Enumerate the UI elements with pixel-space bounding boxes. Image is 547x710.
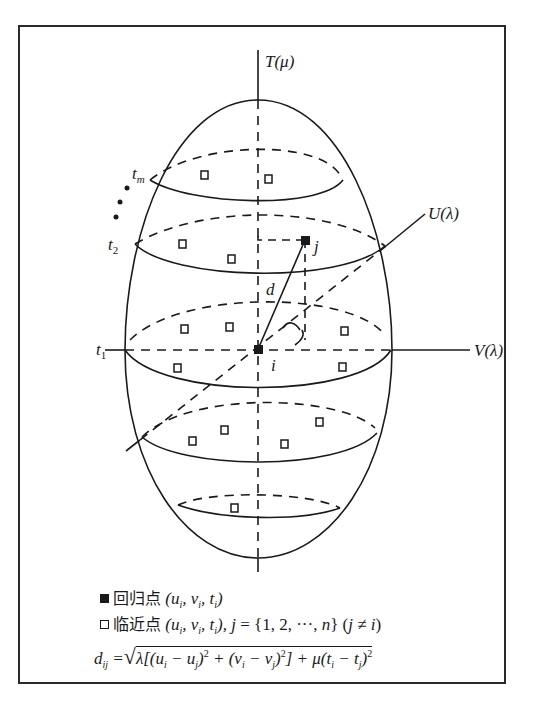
filled-square-icon	[100, 594, 109, 603]
layer-ellipsis-dots	[114, 186, 130, 220]
distance-formula: dij =√λ[(ui − uj)2 + (vi − vj)2] + μ(ti …	[94, 644, 372, 670]
t-axis-label: T(μ)	[265, 53, 294, 70]
v-axis-label: V(λ)	[474, 342, 503, 359]
layer-t1-label: t1	[96, 341, 106, 361]
layer-tm-label: tm	[132, 165, 145, 185]
point-i-label: i	[271, 357, 276, 374]
regression-point-i	[254, 345, 263, 354]
point-j-label: j	[314, 238, 319, 255]
distance-label: d	[266, 281, 275, 298]
ellipsoid-diagram	[0, 0, 547, 710]
u-axis-label: U(λ)	[428, 205, 459, 222]
layer-t2-label: t2	[108, 236, 118, 256]
u-axis	[386, 214, 425, 246]
legend-regression-point: 回归点 (ui, vi, ti)	[100, 590, 223, 610]
legend-neighbor-point: 临近点 (ui, vi, ti), j = {1, 2, ···, n} (j …	[100, 616, 381, 636]
neighbor-point-j	[301, 236, 310, 245]
hollow-square-icon	[100, 620, 109, 629]
